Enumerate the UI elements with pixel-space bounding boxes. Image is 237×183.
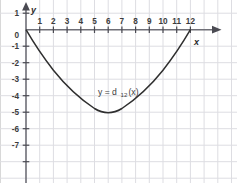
xtick-label-4: 4	[79, 17, 84, 26]
x-axis-label: x	[193, 37, 200, 47]
x-axis-arrow	[212, 26, 222, 34]
ytick-label-minus-7: -7	[12, 141, 20, 150]
ytick-label-minus-6: -6	[12, 125, 20, 134]
ytick-label-minus-3: -3	[12, 75, 20, 84]
graph-figure: 1 2 3 4 5 6 7 8 9 10 11 12 1 0 -1 -2 -3 …	[0, 0, 237, 183]
xtick-label-3: 3	[65, 17, 70, 26]
ytick-label-1: 1	[14, 9, 19, 18]
y-axis-arrow	[22, 2, 30, 11]
xtick-label-7: 7	[120, 17, 125, 26]
ytick-label-0: 0	[14, 31, 19, 40]
curve-label-subscript: 12	[121, 91, 128, 98]
xtick-label-10: 10	[158, 17, 168, 26]
xtick-label-9: 9	[147, 17, 152, 26]
xtick-label-5: 5	[92, 17, 97, 26]
x-axis	[26, 26, 222, 34]
ytick-label-minus-1: -1	[12, 42, 20, 51]
xtick-label-8: 8	[133, 17, 138, 26]
x-axis-tick-labels: 1 2 3 4 5 6 7 8 9 10 11 12	[37, 17, 195, 26]
curve-label-main: y = d	[98, 87, 117, 97]
xtick-label-11: 11	[172, 17, 181, 26]
curve-label-argument: (x)	[129, 87, 139, 97]
ytick-label-minus-4: -4	[12, 92, 20, 101]
xtick-label-2: 2	[51, 17, 56, 26]
y-axis-tick-labels: 1 0 -1 -2 -3 -4 -5 -6 -7	[12, 9, 20, 150]
xtick-label-1: 1	[37, 17, 42, 26]
ytick-label-minus-5: -5	[12, 108, 20, 117]
xtick-label-12: 12	[186, 17, 196, 26]
ytick-label-minus-2: -2	[12, 59, 20, 68]
xtick-label-6: 6	[106, 17, 111, 26]
horizontal-gridlines	[0, 13, 237, 178]
y-axis-label: y	[30, 5, 37, 15]
coordinate-plot: 1 2 3 4 5 6 7 8 9 10 11 12 1 0 -1 -2 -3 …	[0, 0, 237, 183]
